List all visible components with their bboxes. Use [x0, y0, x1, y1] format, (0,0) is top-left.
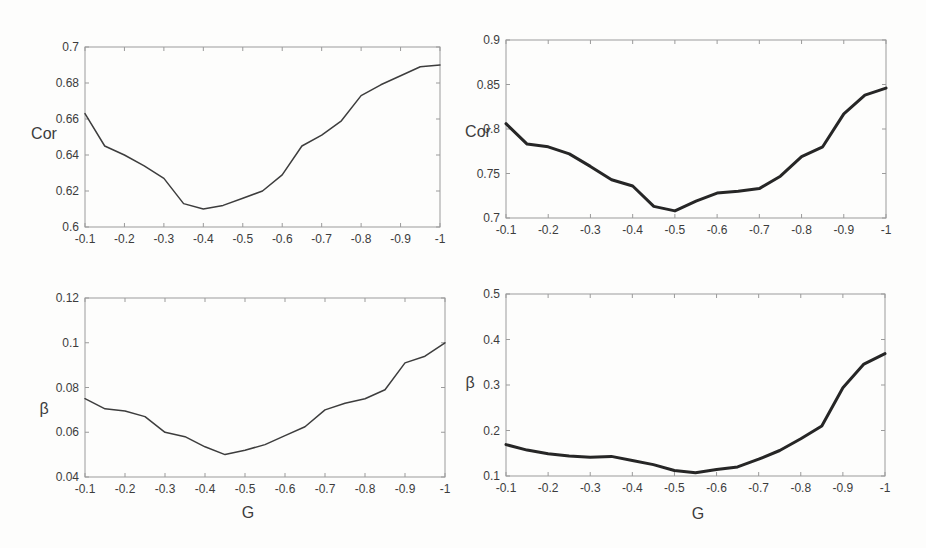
- y-tick-label: 0.1: [62, 336, 79, 350]
- data-curve: [85, 343, 445, 455]
- y-tick-label: 0.66: [56, 112, 80, 126]
- chart-cor-top-left: -0.1-0.2-0.3-0.4-0.5-0.6-0.7-0.8-0.9-10.…: [56, 40, 446, 246]
- chart-beta-bottom-right: -0.1-0.2-0.3-0.4-0.5-0.6-0.7-0.8-0.9-10.…: [483, 287, 890, 495]
- x-tick-label: -1: [881, 223, 892, 237]
- xlabel-bottom-right: G: [692, 505, 704, 522]
- axes-box: [506, 40, 886, 218]
- x-tick-label: -0.8: [351, 232, 372, 246]
- x-tick-label: -0.8: [791, 223, 812, 237]
- y-tick-label: 0.06: [56, 425, 80, 439]
- x-tick-label: -0.9: [390, 232, 411, 246]
- y-tick-label: 0.68: [56, 76, 80, 90]
- xlabel-bottom-left: G: [242, 504, 254, 521]
- x-tick-label: -0.9: [833, 481, 854, 495]
- x-tick-label: -0.4: [622, 223, 643, 237]
- x-tick-label: -0.5: [232, 232, 253, 246]
- x-tick-label: -0.2: [538, 223, 559, 237]
- data-curve: [85, 65, 440, 209]
- x-tick-label: -0.9: [395, 482, 416, 496]
- y-tick-label: 0.62: [56, 184, 80, 198]
- x-tick-label: -0.1: [75, 482, 96, 496]
- x-tick-label: -0.3: [154, 232, 175, 246]
- chart-cor-top-right: -0.1-0.2-0.3-0.4-0.5-0.6-0.7-0.8-0.9-10.…: [477, 33, 892, 237]
- x-tick-label: -0.6: [272, 232, 293, 246]
- four-panel-line-chart-figure: -0.1-0.2-0.3-0.4-0.5-0.6-0.7-0.8-0.9-10.…: [0, 0, 926, 548]
- x-tick-label: -0.8: [790, 481, 811, 495]
- x-tick-label: -0.2: [115, 482, 136, 496]
- ylabel-top-left: Cor: [31, 125, 57, 142]
- x-tick-label: -0.7: [311, 232, 332, 246]
- data-curve: [506, 88, 886, 211]
- y-tick-label: 0.75: [477, 167, 501, 181]
- x-tick-label: -0.7: [748, 481, 769, 495]
- x-tick-label: -0.6: [275, 482, 296, 496]
- x-tick-label: -0.4: [622, 481, 643, 495]
- x-tick-label: -0.6: [706, 481, 727, 495]
- figure-canvas: -0.1-0.2-0.3-0.4-0.5-0.6-0.7-0.8-0.9-10.…: [0, 0, 926, 548]
- x-tick-label: -1: [435, 232, 446, 246]
- x-tick-label: -0.4: [193, 232, 214, 246]
- y-tick-label: 0.1: [483, 469, 500, 483]
- x-tick-label: -0.1: [75, 232, 96, 246]
- x-tick-label: -0.6: [707, 223, 728, 237]
- y-tick-label: 0.08: [56, 381, 80, 395]
- axes-box: [506, 294, 885, 476]
- y-tick-label: 0.3: [483, 378, 500, 392]
- y-tick-label: 0.64: [56, 148, 80, 162]
- ylabel-bottom-right: β: [465, 374, 474, 391]
- y-tick-label: 0.6: [62, 220, 79, 234]
- y-tick-label: 0.4: [483, 333, 500, 347]
- x-tick-label: -1: [880, 481, 891, 495]
- x-tick-label: -0.5: [664, 481, 685, 495]
- x-tick-label: -0.3: [580, 223, 601, 237]
- x-tick-label: -0.2: [114, 232, 135, 246]
- x-tick-label: -0.8: [355, 482, 376, 496]
- ylabel-bottom-left: β: [39, 400, 48, 417]
- y-tick-label: 0.85: [477, 78, 501, 92]
- y-tick-label: 0.9: [483, 33, 500, 47]
- y-tick-label: 0.7: [483, 211, 500, 225]
- x-tick-label: -0.5: [665, 223, 686, 237]
- x-tick-label: -0.9: [833, 223, 854, 237]
- x-tick-label: -0.4: [195, 482, 216, 496]
- x-tick-label: -0.1: [496, 481, 517, 495]
- chart-beta-bottom-left: -0.1-0.2-0.3-0.4-0.5-0.6-0.7-0.8-0.9-10.…: [56, 291, 451, 496]
- x-tick-label: -0.1: [496, 223, 517, 237]
- y-tick-label: 0.5: [483, 287, 500, 301]
- x-tick-label: -0.2: [538, 481, 559, 495]
- x-tick-label: -0.3: [580, 481, 601, 495]
- axes-box: [85, 47, 440, 227]
- x-tick-label: -0.7: [315, 482, 336, 496]
- x-tick-label: -0.3: [155, 482, 176, 496]
- x-tick-label: -1: [440, 482, 451, 496]
- x-tick-label: -0.7: [749, 223, 770, 237]
- axes-box: [85, 298, 445, 477]
- y-tick-label: 0.12: [56, 291, 80, 305]
- y-tick-label: 0.2: [483, 424, 500, 438]
- y-tick-label: 0.7: [62, 40, 79, 54]
- y-tick-label: 0.04: [56, 470, 80, 484]
- data-curve: [506, 354, 885, 473]
- ylabel-top-right: Cor: [465, 123, 491, 140]
- x-tick-label: -0.5: [235, 482, 256, 496]
